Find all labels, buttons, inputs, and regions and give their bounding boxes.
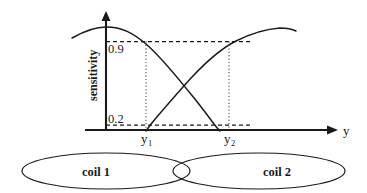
y-tick-label-0-2: 0.2	[108, 112, 124, 126]
y-axis-arrow-icon	[102, 11, 111, 21]
x-tick-label-y1-base: y	[141, 131, 148, 146]
coil-2-ellipse	[173, 153, 345, 189]
y-axis-title: sensitivity	[86, 50, 100, 101]
x-axis-label: y	[343, 123, 350, 138]
y-tick-label-0-9: 0.9	[108, 42, 124, 56]
x-tick-label-y2-subscript: 2	[231, 138, 235, 148]
sensitivity-coil-figure: sensitivity 0.9 0.2 y 1 y 2 y coil 1 coi…	[0, 0, 367, 193]
coil-1-label: coil 1	[82, 165, 110, 179]
coil-2-label: coil 2	[263, 165, 291, 179]
x-tick-label-y1: y 1	[141, 131, 152, 148]
x-tick-label-y2: y 2	[224, 131, 235, 148]
x-axis-arrow-icon	[327, 126, 338, 135]
x-tick-label-y1-subscript: 1	[148, 138, 152, 148]
coil-2-sensitivity-curve	[146, 28, 296, 131]
x-tick-label-y2-base: y	[224, 131, 231, 146]
figure-canvas: sensitivity 0.9 0.2 y 1 y 2 y coil 1 coi…	[0, 0, 367, 193]
